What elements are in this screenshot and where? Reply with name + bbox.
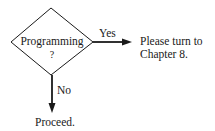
no-arrowhead-icon xyxy=(49,103,56,113)
yes-target-line1: Please turn to xyxy=(140,35,203,48)
yes-target-line2: Chapter 8. xyxy=(140,48,203,61)
yes-label: Yes xyxy=(99,27,116,40)
flowchart-lines xyxy=(0,0,215,131)
decision-label-line2: ? xyxy=(20,48,84,61)
no-target-text: Proceed. xyxy=(35,116,75,129)
decision-label-line1: Programming xyxy=(20,35,84,48)
no-label: No xyxy=(57,84,71,97)
yes-target-text: Please turn to Chapter 8. xyxy=(140,35,203,61)
decision-label: Programming ? xyxy=(20,35,84,61)
yes-arrowhead-icon xyxy=(122,39,132,46)
